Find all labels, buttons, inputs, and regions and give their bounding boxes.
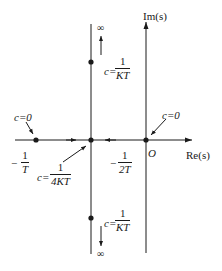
real-axis-label: Re(s) [186,150,210,161]
breakaway-dot [88,137,93,142]
label-upper-1-over-KT: 1 KT [115,56,130,81]
infinity-bottom-label: ∞ [97,249,104,259]
infinity-top-label: ∞ [97,23,104,33]
breakaway-prefix: c= [37,172,49,183]
c-zero-left-label: c=0 [14,112,32,123]
neg-sign-2T: − [110,158,116,169]
label-breakaway-1-over-4KT: 1 4KT [50,162,71,187]
origin-label: O [148,148,156,159]
imag-axis-label: Im(s) [143,11,167,22]
lower-point-dot [88,215,93,220]
upper-point-dot [88,59,93,64]
c-zero-origin-label: c=0 [162,110,180,121]
pointer-c0-left [26,122,33,134]
label-lower-1-over-KT: 1 KT [115,208,130,233]
label-neg-1-over-2T: 1 2T [118,150,132,175]
origin-dot [143,137,148,142]
pole-dot-neg-1-over-T [33,137,38,142]
label-neg-1-over-T: 1 T [21,150,29,175]
root-locus-plot [0,0,222,271]
pointer-breakaway [63,146,86,162]
neg-sign-T: − [11,158,17,169]
pointer-c0-origin [151,119,166,135]
